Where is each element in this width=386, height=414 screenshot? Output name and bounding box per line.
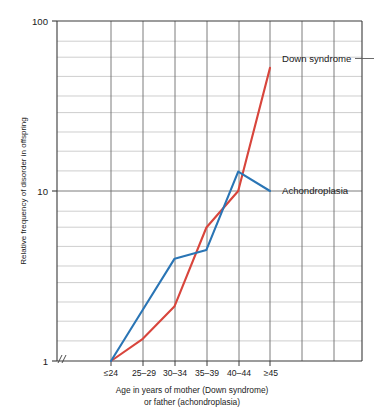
x-tick-label-0: ≤24 bbox=[104, 368, 118, 378]
log-line-chart: 100 10 1 ≤24 25–29 30–34 35–39 40–44 ≥45… bbox=[0, 0, 386, 414]
x-tick-label-2: 30–34 bbox=[163, 368, 187, 378]
x-tick-label-3: 35–39 bbox=[195, 368, 219, 378]
x-axis-title-line2: or father (achondroplasia) bbox=[144, 397, 240, 407]
y-axis-title: Relative frequency of disorder in offspr… bbox=[19, 117, 28, 265]
chart-figure: 100 10 1 ≤24 25–29 30–34 35–39 40–44 ≥45… bbox=[0, 0, 386, 414]
x-tick-label-5: ≥45 bbox=[264, 368, 278, 378]
x-tick-label-4: 40–44 bbox=[227, 368, 251, 378]
y-axis-ticks bbox=[52, 21, 57, 361]
y-tick-label-1: 1 bbox=[43, 356, 48, 367]
axis-break-icon bbox=[58, 355, 66, 363]
x-tick-label-1: 25–29 bbox=[132, 368, 156, 378]
y-tick-label-10: 10 bbox=[37, 186, 48, 197]
series-line-down-syndrome bbox=[111, 68, 270, 361]
y-tick-label-100: 100 bbox=[32, 16, 48, 27]
series-label-down-syndrome: Down syndrome bbox=[282, 53, 351, 64]
x-axis-title-line1: Age in years of mother (Down syndrome) bbox=[116, 385, 269, 395]
x-axis-ticks bbox=[111, 361, 270, 366]
series-label-achondroplasia: Achondroplasia bbox=[282, 185, 349, 196]
